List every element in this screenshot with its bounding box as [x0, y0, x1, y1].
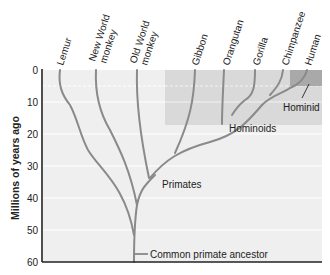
y-axis-ticks: 0 10 20 30 40 50 60 [27, 65, 39, 268]
tick-20: 20 [27, 129, 39, 140]
tick-40: 40 [27, 193, 39, 204]
tick-30: 30 [27, 161, 39, 172]
ancestor-label: Common primate ancestor [150, 249, 268, 260]
y-axis-title: Millions of years ago [9, 116, 21, 220]
species-labels: Lemur New World monkey Old World monkey … [54, 9, 322, 66]
label-orangutan: Orangutan [220, 18, 245, 66]
hominoids-label: Hominoids [229, 123, 276, 134]
label-human: Human [302, 33, 322, 67]
tick-10: 10 [27, 97, 39, 108]
hominid-label: Hominid [283, 102, 320, 113]
tick-0: 0 [32, 65, 38, 76]
tick-60: 60 [27, 257, 39, 268]
label-lemur: Lemur [54, 36, 73, 67]
label-gibbon: Gibbon [189, 33, 209, 67]
primates-label: Primates [162, 179, 201, 190]
label-gorilla: Gorilla [250, 35, 270, 66]
tick-50: 50 [27, 225, 39, 236]
primate-phylogeny-diagram: 0 10 20 30 40 50 60 Millions of years ag… [0, 0, 330, 275]
